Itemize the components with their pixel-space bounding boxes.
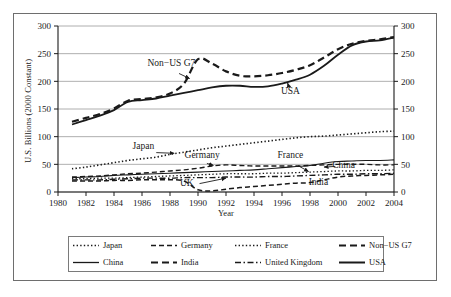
legend-swatch-solid [73,259,99,266]
legend-label: India [181,258,198,267]
legend-label: USA [369,258,386,267]
annotation-leader-non-us-g7 [179,73,190,78]
legend-label: Non−US G7 [369,241,412,250]
x-axis-tick-label: 2004 [385,198,404,208]
legend-item-china[interactable]: China [73,254,151,271]
chart-legend: JapanGermanyFranceNon−US G7ChinaIndiaUni… [68,236,384,272]
annotation-label-france: France [277,150,303,160]
y-axis-tick-label-left: 0 [47,187,52,197]
y-axis-tick-label-right: 0 [401,187,406,197]
annotation-label-japan: Japan [133,141,155,151]
annotation-label-non-us-g7: Non−US G7 [147,58,195,68]
y-axis-tick-label-left: 50 [42,160,52,170]
y-axis-tick-label-right: 300 [401,21,415,31]
legend-label: China [103,258,123,267]
y-axis-tick-label-right: 100 [401,132,415,142]
legend-swatch-solid [339,259,365,266]
legend-label: Japan [103,241,122,250]
series-line-india [72,174,394,191]
annotation-label-germany: Germany [185,150,221,160]
legend-item-germany[interactable]: Germany [151,237,235,254]
legend-item-usa[interactable]: USA [339,254,435,271]
legend-swatch-dashed [151,259,177,266]
y-axis-tick-label-left: 300 [38,21,52,31]
legend-swatch-dashdot [235,259,261,266]
legend-label: France [265,241,288,250]
x-axis-tick-label: 1986 [133,198,152,208]
chart-plot-area: 0501001502002503000501001502002503001980… [14,14,438,226]
legend-swatch-dashed [151,242,177,249]
x-axis-tick-label: 1984 [105,198,124,208]
x-axis-tick-label: 1992 [217,198,235,208]
x-axis-tick-label: 1996 [273,198,292,208]
figure-frame: 0501001502002503000501001502002503001980… [13,13,437,281]
x-axis-tick-label: 1982 [77,198,95,208]
y-axis-tick-label-left: 150 [38,104,52,114]
line-chart-svg: 0501001502002503000501001502002503001980… [14,14,438,226]
legend-grid: JapanGermanyFranceNon−US G7ChinaIndiaUni… [69,237,383,271]
annotation-label-usa: USA [281,86,300,96]
legend-item-france[interactable]: France [235,237,339,254]
y-axis-tick-label-right: 200 [401,77,415,87]
y-axis-tick-label-right: 50 [401,160,411,170]
annotation-leader-japan [156,153,174,154]
legend-label: United Kingdom [265,258,322,267]
x-axis-title: Year [14,208,438,218]
annotation-label-india: India [309,177,329,187]
annotation-leader-uk [200,178,226,183]
legend-label: Germany [181,241,213,250]
x-axis-tick-label: 2000 [329,198,348,208]
x-axis-tick-label: 1994 [245,198,264,208]
legend-swatch-dotted [235,242,261,249]
x-axis-tick-label: 2002 [357,198,375,208]
x-axis-tick-label: 1980 [49,198,68,208]
legend-item-india[interactable]: India [151,254,235,271]
y-axis-tick-label-left: 200 [38,77,52,87]
y-axis-tick-label-right: 150 [401,104,415,114]
y-axis-tick-label-left: 250 [38,49,52,59]
x-axis-tick-label: 1988 [161,198,180,208]
y-axis-tick-label-left: 100 [38,132,52,142]
x-axis-tick-label: 1990 [189,198,208,208]
legend-swatch-dotted [73,242,99,249]
x-axis-tick-label: 1998 [301,198,320,208]
annotation-label-uk: UK [180,178,194,188]
legend-item-united-kingdom[interactable]: United Kingdom [235,254,339,271]
y-axis-title: U.S. Billions (2000 Constant) [23,41,33,181]
legend-item-non-us-g7[interactable]: Non−US G7 [339,237,435,254]
annotation-label-china: China [332,160,355,170]
legend-item-japan[interactable]: Japan [73,237,151,254]
y-axis-tick-label-right: 250 [401,49,415,59]
legend-swatch-dashed [339,242,365,249]
